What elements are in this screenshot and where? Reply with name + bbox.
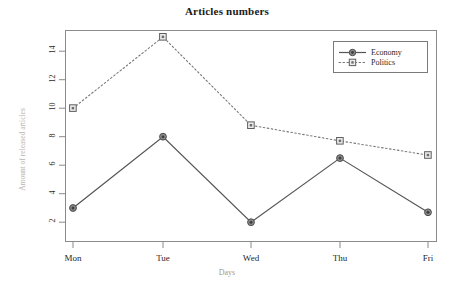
legend-label-economy: Economy (371, 48, 402, 57)
y-axis-ticks (59, 51, 65, 222)
series-line-economy (73, 137, 428, 223)
x-tick-label-tue: Tue (143, 253, 183, 263)
y-tick-label-12: 12 (48, 70, 57, 86)
y-tick-label-4: 4 (48, 184, 57, 200)
x-tick-label-fri: Fri (408, 253, 448, 263)
chart-container: Articles numbers (0, 0, 454, 295)
plot-area-svg (0, 0, 454, 295)
x-axis-title: Days (0, 268, 454, 277)
y-axis-title: Amount of released articles (18, 85, 27, 215)
y-tick-label-8: 8 (48, 127, 57, 143)
legend-label-politics: Politics (371, 58, 395, 67)
y-tick-label-14: 14 (48, 42, 57, 58)
legend-box (334, 42, 428, 73)
x-tick-label-wed: Wed (231, 253, 271, 263)
x-tick-label-thu: Thu (320, 253, 360, 263)
y-tick-label-6: 6 (48, 156, 57, 172)
x-tick-label-mon: Mon (53, 253, 93, 263)
x-axis-ticks (73, 242, 428, 248)
y-tick-label-2: 2 (48, 213, 57, 229)
y-tick-label-10: 10 (48, 99, 57, 115)
